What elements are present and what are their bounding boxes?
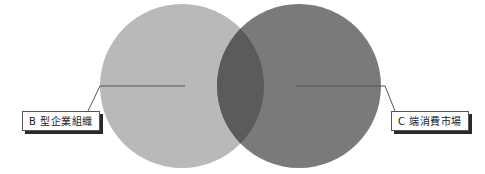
label-c-consumer-text: C 端消費市場 [398,116,462,127]
venn-diagram [0,0,485,174]
label-b-enterprise: B 型企業組織 [22,111,100,131]
label-c-consumer: C 端消費市場 [391,111,469,131]
label-b-enterprise-text: B 型企業組織 [29,116,93,127]
